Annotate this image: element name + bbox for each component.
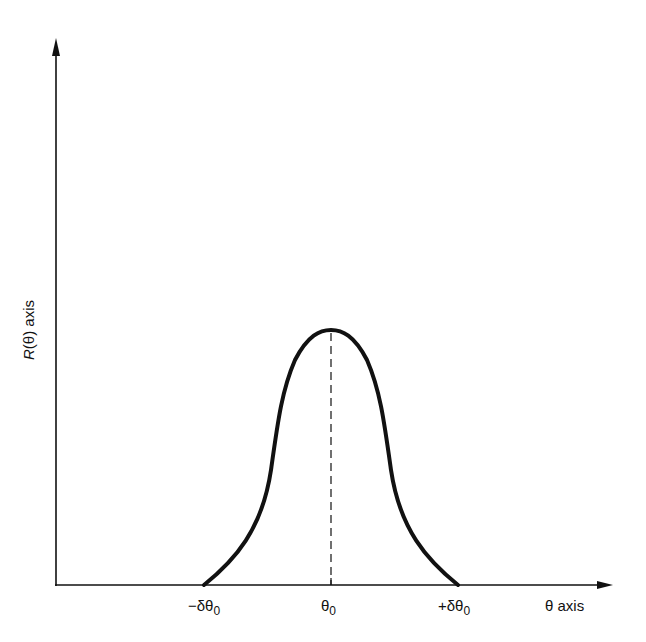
plot-svg <box>0 0 646 642</box>
x-axis-arrow-icon <box>597 581 613 589</box>
tick-sub: 0 <box>463 604 470 618</box>
figure-canvas: R(θ) axis −δθ0 θ0 +δθ0 θ axis <box>0 0 646 642</box>
tick-label-plus-delta: +δθ0 <box>438 597 470 614</box>
x-axis-label: θ axis <box>545 597 584 614</box>
tick-main: −δθ <box>188 597 213 614</box>
tick-sub: 0 <box>329 604 336 618</box>
y-axis-label-rest: (θ) axis <box>20 300 37 349</box>
tick-label-theta0: θ0 <box>321 597 336 614</box>
y-axis-arrow-icon <box>52 38 60 56</box>
tick-label-minus-delta: −δθ0 <box>188 597 220 614</box>
tick-sub: 0 <box>213 604 220 618</box>
y-axis-label: R(θ) axis <box>20 300 37 360</box>
tick-main: +δθ <box>438 597 463 614</box>
y-axis-label-var: R <box>20 349 37 360</box>
